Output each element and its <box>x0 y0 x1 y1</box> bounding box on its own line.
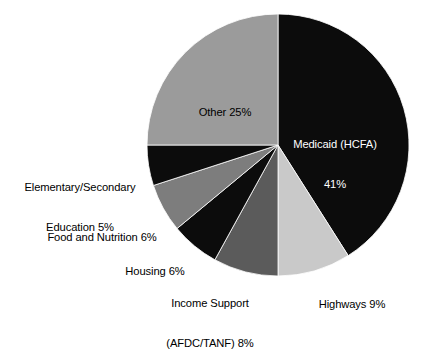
slice-label-medicaid: Medicaid (HCFA) 41% <box>281 112 389 218</box>
slice-label-medicaid-line2: 41% <box>281 178 389 191</box>
slice-label-highways: Highways 9% <box>303 272 401 338</box>
slice-label-income-line1: Income Support <box>144 297 276 310</box>
slice-label-highways-line1: Highways 9% <box>303 298 401 311</box>
slice-label-other-line1: Other 25% <box>182 106 268 119</box>
slice-label-income-support: Income Support (AFDC/TANF) 8% <box>144 271 276 353</box>
slice-label-education-line1: Elementary/Secondary <box>6 181 154 194</box>
slice-label-medicaid-line1: Medicaid (HCFA) <box>281 138 389 151</box>
slice-label-income-line2: (AFDC/TANF) 8% <box>144 337 276 350</box>
slice-label-other: Other 25% <box>182 80 268 146</box>
